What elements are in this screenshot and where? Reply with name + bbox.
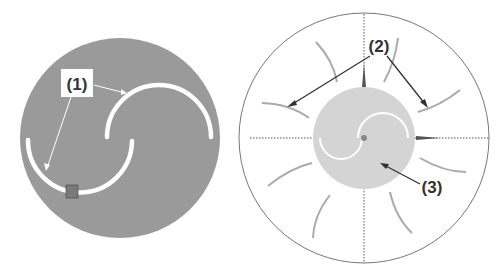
right-panel: (2) (3) <box>239 13 489 263</box>
rotor-hub <box>361 135 367 141</box>
left-panel: (1) <box>20 38 220 238</box>
rotor-disc <box>20 38 220 238</box>
marker-square <box>66 185 78 198</box>
label-2: (2) <box>369 37 390 56</box>
diagram-canvas: (1) (2) <box>0 0 504 279</box>
label-1: (1) <box>67 75 88 94</box>
label-3: (3) <box>422 178 443 197</box>
